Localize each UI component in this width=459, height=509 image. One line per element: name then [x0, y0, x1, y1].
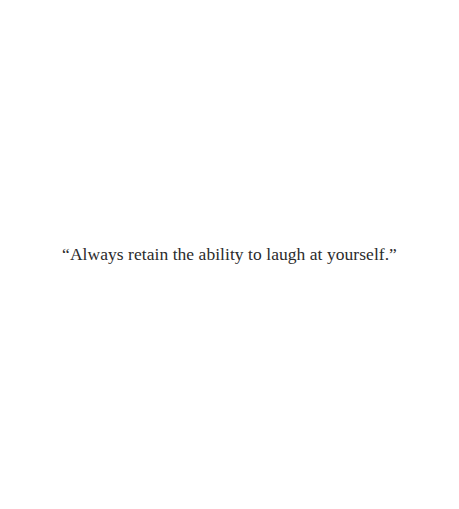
page: “Always retain the ability to laugh at y… [0, 0, 459, 509]
quote-text: “Always retain the ability to laugh at y… [0, 244, 459, 264]
